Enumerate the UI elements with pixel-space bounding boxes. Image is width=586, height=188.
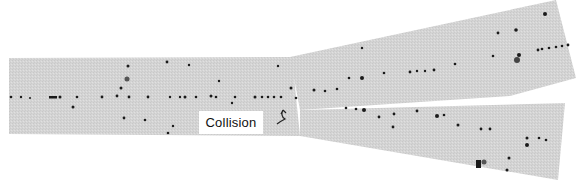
collision-label: Collision: [199, 111, 263, 134]
track-photograph: Collision: [0, 0, 586, 188]
photo-strips: [0, 0, 586, 188]
lower-right-strip: [300, 103, 565, 180]
upper-right-strip: [290, 0, 576, 110]
